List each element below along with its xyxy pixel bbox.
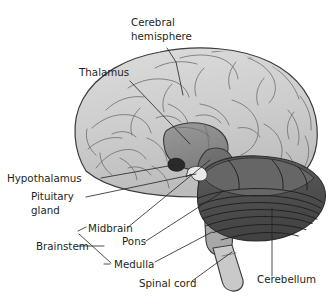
label-brainstem: Brainstem bbox=[36, 240, 89, 252]
brain-diagram-svg: Cerebral hemisphere Thalamus Hypothalamu… bbox=[0, 0, 333, 304]
brain-diagram-figure: Cerebral hemisphere Thalamus Hypothalamu… bbox=[0, 0, 333, 304]
label-thalamus: Thalamus bbox=[78, 66, 129, 78]
label-cerebellum: Cerebellum bbox=[257, 273, 316, 285]
spinal-cord-shape bbox=[213, 245, 243, 291]
label-cerebral-hemisphere: Cerebral hemisphere bbox=[131, 16, 192, 42]
label-hypothalamus: Hypothalamus bbox=[7, 172, 82, 184]
leader-medulla-to-structure bbox=[155, 232, 212, 262]
label-spinal-cord: Spinal cord bbox=[139, 277, 196, 289]
label-pituitary-gland: Pituitary gland bbox=[31, 190, 77, 216]
hypothalamus-shape bbox=[168, 158, 185, 171]
leader-midbrain bbox=[78, 227, 86, 231]
label-midbrain: Midbrain bbox=[88, 222, 133, 234]
label-medulla: Medulla bbox=[114, 258, 154, 270]
label-pons: Pons bbox=[122, 235, 146, 247]
